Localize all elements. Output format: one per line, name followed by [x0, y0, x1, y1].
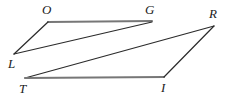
- vertex-label-i: I: [161, 81, 165, 94]
- figure-canvas: [0, 0, 233, 102]
- vertex-label-r: R: [209, 7, 217, 20]
- vertex-label-g: G: [145, 3, 154, 16]
- figure-background: [0, 0, 233, 102]
- vertex-label-l: L: [8, 57, 15, 70]
- edge-ti: [25, 77, 164, 78]
- vertex-label-o: O: [42, 3, 51, 16]
- edge-og: [48, 21, 152, 22]
- geometry-figure: O G R L T I: [0, 0, 233, 102]
- vertex-label-t: T: [19, 82, 26, 95]
